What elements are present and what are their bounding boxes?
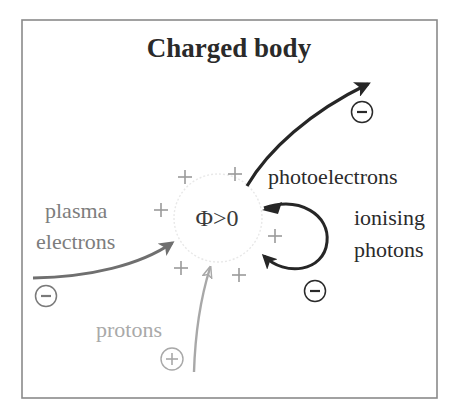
diagram-title: Charged body <box>147 33 312 63</box>
plasma-electrons-label-line1: plasma <box>45 198 108 223</box>
ionising-photons-label-line1: ionising <box>354 205 425 230</box>
potential-label: Φ>0 <box>195 205 238 231</box>
ionising-photons-label-line2: photons <box>354 237 424 262</box>
plasma-electrons-label-line2: electrons <box>36 229 115 254</box>
protons-label: protons <box>96 317 162 342</box>
charged-body-diagram: Charged body Φ>0 photoelectrons ionising… <box>0 0 454 412</box>
photoelectrons-label: photoelectrons <box>268 164 398 189</box>
